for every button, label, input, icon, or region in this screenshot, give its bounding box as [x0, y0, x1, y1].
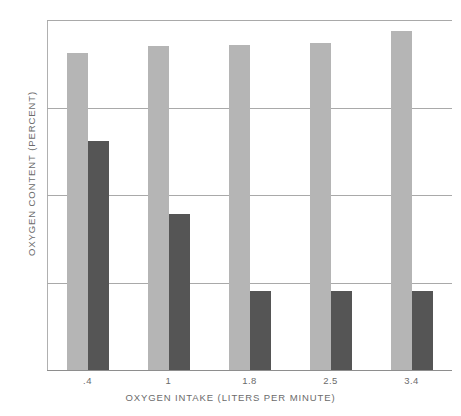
x-tick-label: 2.5 [301, 375, 361, 386]
bar-light-2.5 [310, 43, 331, 370]
x-tick-label: 1.8 [220, 375, 280, 386]
bar-light-1.8 [229, 45, 250, 371]
bar-chart: OXYGEN CONTENT (PERCENT) 05101520 .411.8… [0, 0, 461, 416]
bar-light-3.4 [391, 31, 412, 371]
gridline-0 [47, 370, 452, 371]
bar-dark-3.4 [412, 291, 433, 370]
x-tick-label: .4 [58, 375, 118, 386]
bar-light-1 [148, 46, 169, 370]
y-axis-title: OXYGEN CONTENT (PERCENT) [26, 59, 37, 289]
x-axis-title: OXYGEN INTAKE (LITERS PER MINUTE) [0, 392, 461, 403]
bar-dark-2.5 [331, 291, 352, 370]
gridline-20 [47, 20, 452, 21]
bar-dark-.4 [88, 141, 109, 370]
bar-dark-1 [169, 214, 190, 370]
x-tick-label: 1 [139, 375, 199, 386]
bar-dark-1.8 [250, 291, 271, 370]
x-tick-label: 3.4 [382, 375, 442, 386]
bar-light-.4 [67, 53, 88, 370]
plot-area: 05101520 [47, 20, 452, 370]
